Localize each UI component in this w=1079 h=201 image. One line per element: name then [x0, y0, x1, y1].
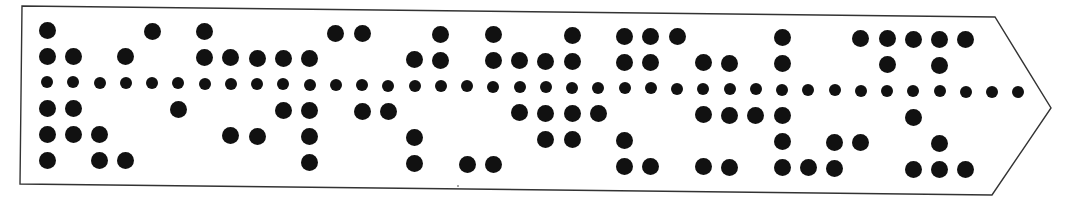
data-hole-track-2 — [275, 50, 292, 67]
data-hole-track-1 — [669, 28, 686, 45]
data-hole-track-6 — [616, 158, 633, 175]
data-hole-track-4 — [695, 106, 712, 123]
data-hole-track-1 — [852, 30, 869, 47]
paper-speck — [457, 185, 459, 187]
data-hole-track-1 — [774, 29, 791, 46]
data-hole-track-1 — [39, 22, 56, 39]
data-hole-track-6 — [774, 159, 791, 176]
data-hole-track-1 — [485, 26, 502, 43]
data-hole-track-4 — [721, 107, 738, 124]
sprocket-hole — [94, 77, 106, 89]
data-hole-track-6 — [485, 156, 502, 173]
data-hole-track-4 — [590, 105, 607, 122]
sprocket-hole — [330, 79, 342, 91]
data-hole-track-6 — [91, 152, 108, 169]
sprocket-hole — [619, 82, 631, 94]
sprocket-hole — [277, 78, 289, 90]
data-hole-track-1 — [879, 30, 896, 47]
sprocket-hole — [540, 81, 552, 93]
data-hole-track-2 — [222, 49, 239, 66]
data-hole-track-4 — [65, 100, 82, 117]
data-hole-track-4 — [905, 109, 922, 126]
data-hole-track-1 — [432, 26, 449, 43]
data-hole-track-2 — [642, 54, 659, 71]
data-hole-track-1 — [957, 31, 974, 48]
data-hole-track-5 — [39, 126, 56, 143]
sprocket-hole — [829, 84, 841, 96]
data-hole-track-4 — [774, 107, 791, 124]
data-hole-track-6 — [931, 161, 948, 178]
sprocket-hole — [645, 82, 657, 94]
sprocket-hole — [382, 80, 394, 92]
sprocket-hole — [802, 84, 814, 96]
sprocket-hole — [120, 77, 132, 89]
data-hole-track-1 — [327, 25, 344, 42]
data-hole-track-5 — [616, 132, 633, 149]
data-hole-track-6 — [695, 158, 712, 175]
data-hole-track-5 — [826, 134, 843, 151]
sprocket-hole — [251, 78, 263, 90]
data-hole-track-2 — [65, 48, 82, 65]
data-hole-track-1 — [564, 27, 581, 44]
sprocket-hole — [881, 85, 893, 97]
sprocket-hole — [304, 79, 316, 91]
data-hole-track-2 — [249, 50, 266, 67]
data-hole-track-5 — [91, 126, 108, 143]
sprocket-hole — [356, 79, 368, 91]
sprocket-hole — [487, 81, 499, 93]
data-hole-track-2 — [774, 55, 791, 72]
sprocket-hole — [41, 76, 53, 88]
sprocket-hole — [1012, 86, 1024, 98]
sprocket-hole — [671, 83, 683, 95]
data-hole-track-2 — [879, 56, 896, 73]
data-hole-track-5 — [931, 135, 948, 152]
data-hole-track-1 — [196, 23, 213, 40]
data-hole-track-4 — [301, 102, 318, 119]
sprocket-hole — [724, 83, 736, 95]
data-hole-track-2 — [196, 49, 213, 66]
data-hole-track-4 — [747, 107, 764, 124]
data-hole-track-2 — [616, 54, 633, 71]
data-hole-track-1 — [144, 23, 161, 40]
data-hole-track-4 — [170, 101, 187, 118]
sprocket-hole — [750, 83, 762, 95]
data-hole-track-2 — [432, 52, 449, 69]
data-hole-track-5 — [249, 128, 266, 145]
data-hole-track-6 — [459, 156, 476, 173]
data-hole-track-2 — [931, 57, 948, 74]
data-hole-track-1 — [642, 28, 659, 45]
data-hole-track-4 — [564, 105, 581, 122]
data-hole-track-5 — [301, 128, 318, 145]
data-hole-track-6 — [406, 155, 423, 172]
data-hole-track-6 — [905, 161, 922, 178]
data-hole-track-4 — [380, 103, 397, 120]
data-hole-track-2 — [39, 48, 56, 65]
data-hole-track-2 — [301, 50, 318, 67]
data-hole-track-5 — [537, 131, 554, 148]
sprocket-hole — [960, 86, 972, 98]
sprocket-hole — [986, 86, 998, 98]
sprocket-hole — [199, 78, 211, 90]
data-hole-track-2 — [695, 54, 712, 71]
data-hole-track-4 — [275, 102, 292, 119]
sprocket-hole — [67, 76, 79, 88]
data-hole-track-6 — [642, 158, 659, 175]
data-hole-track-1 — [616, 28, 633, 45]
data-hole-track-5 — [774, 133, 791, 150]
data-hole-track-1 — [354, 25, 371, 42]
sprocket-hole — [934, 85, 946, 97]
data-hole-track-2 — [511, 52, 528, 69]
data-hole-track-4 — [537, 105, 554, 122]
sprocket-hole — [776, 84, 788, 96]
data-hole-track-5 — [222, 127, 239, 144]
data-hole-track-6 — [957, 161, 974, 178]
sprocket-hole — [146, 77, 158, 89]
data-hole-track-4 — [39, 100, 56, 117]
data-hole-track-2 — [537, 53, 554, 70]
sprocket-hole — [435, 80, 447, 92]
sprocket-hole — [697, 83, 709, 95]
sprocket-hole — [514, 81, 526, 93]
data-hole-track-5 — [852, 134, 869, 151]
data-hole-track-2 — [721, 55, 738, 72]
data-hole-track-6 — [117, 152, 134, 169]
